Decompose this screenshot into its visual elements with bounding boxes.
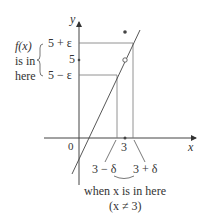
right-pointer [134, 140, 145, 162]
bottom-note-line2: (x ≠ 3) [109, 199, 142, 214]
y-tick-upper: 5 + ε [48, 36, 72, 51]
bottom-brace [114, 176, 134, 179]
left-note: f(x) is in here [15, 39, 36, 84]
x-tick-left: 3 − δ [92, 162, 116, 177]
y-tick-lower: 5 − ε [48, 68, 72, 83]
function-line [72, 30, 140, 174]
left-note-line1: f(x) [15, 39, 36, 54]
left-pointer [105, 140, 116, 162]
left-note-line2: is in [15, 54, 36, 69]
bottom-note-line1: when x is in here [84, 184, 166, 199]
left-brace [37, 44, 43, 76]
origin-label: 0 [68, 140, 74, 152]
x-tick-center: 3 [121, 140, 127, 155]
filled-point-f3 [123, 30, 127, 34]
left-note-line3: here [15, 69, 36, 84]
open-circle-point [123, 58, 127, 62]
y-tick-center: 5 [69, 52, 75, 67]
y-tick-5-dot [78, 59, 81, 62]
x-axis-label: x [188, 140, 193, 155]
x-tick-right: 3 + δ [133, 162, 157, 177]
epsilon-delta-diagram [0, 0, 209, 214]
y-axis-label: y [70, 12, 75, 27]
